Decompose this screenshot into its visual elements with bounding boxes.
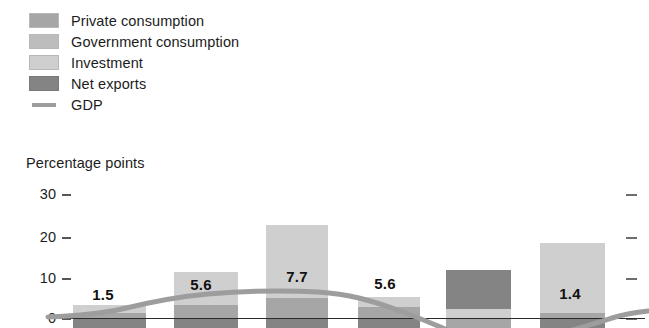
- bar-value-label: 7.7: [280, 268, 314, 285]
- bar-segment-private-consumption: [358, 307, 420, 318]
- zero-baseline: [48, 318, 645, 319]
- bar-segment-net-exports: [73, 318, 146, 328]
- y-tick-mark-right-10: [626, 278, 637, 280]
- y-tick-mark-right-30: [626, 194, 637, 196]
- bar-value-label: 1.4: [553, 285, 587, 302]
- bar-segment-investment: [446, 309, 511, 318]
- bar-segment-investment: [266, 225, 328, 298]
- bar-segment-investment: [540, 243, 605, 313]
- y-tick-label-30: 30: [16, 186, 56, 202]
- bar-segment-investment: [358, 297, 420, 307]
- bar-value-label: 5.6: [368, 275, 402, 292]
- bar-segment-private-consumption: [266, 298, 328, 318]
- chart-plot-area: 30 20 10 0 1.55.67.75.61.4: [0, 0, 649, 328]
- bar-segment-private-consumption: [174, 305, 238, 318]
- bar-segment-net-exports: [174, 318, 238, 328]
- bar-value-label: 1.5: [86, 286, 120, 303]
- y-tick-mark-left-10: [62, 278, 71, 280]
- bar-segment-net-exports: [266, 318, 328, 328]
- bar-segment-net-exports: [358, 318, 420, 328]
- y-tick-label-10: 10: [16, 270, 56, 286]
- y-tick-label-20: 20: [16, 229, 56, 245]
- bar-value-label: 5.6: [184, 276, 218, 293]
- bar-segment-net-exports: [540, 318, 605, 328]
- y-tick-mark-right-20: [626, 237, 637, 239]
- bar-segment-private-consumption: [446, 318, 511, 328]
- y-tick-mark-left-20: [62, 237, 71, 239]
- bar-segment-net-exports: [446, 270, 511, 309]
- y-tick-mark-left-30: [62, 194, 71, 196]
